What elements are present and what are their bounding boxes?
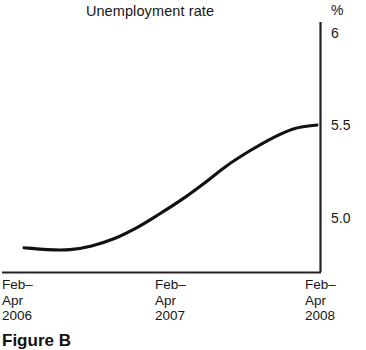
x-tick-label-2006: Feb– Apr 2006	[2, 277, 33, 324]
x-tick-label-2006-line1: Feb–	[2, 277, 33, 293]
figure-caption: Figure B	[2, 331, 71, 350]
x-tick-label-2007-line2: Apr	[155, 293, 186, 309]
figure-container: Unemployment rate % 6 5.5 5.0 Feb– Apr 2…	[0, 0, 366, 350]
series-line-unemployment-rate	[24, 125, 317, 250]
x-tick-label-2008: Feb– Apr 2008	[305, 277, 336, 324]
y-tick-label-6: 6	[331, 25, 339, 41]
x-tick-label-2006-line3: 2006	[2, 308, 33, 324]
x-tick-label-2008-line2: Apr	[305, 293, 336, 309]
y-tick-label-5-0: 5.0	[331, 210, 350, 226]
x-tick-label-2006-line2: Apr	[2, 293, 33, 309]
x-tick-label-2007-line3: 2007	[155, 308, 186, 324]
y-tick-label-5-5: 5.5	[331, 117, 350, 133]
x-tick-label-2007-line1: Feb–	[155, 277, 186, 293]
x-tick-label-2008-line1: Feb–	[305, 277, 336, 293]
x-tick-label-2008-line3: 2008	[305, 308, 336, 324]
x-tick-label-2007: Feb– Apr 2007	[155, 277, 186, 324]
